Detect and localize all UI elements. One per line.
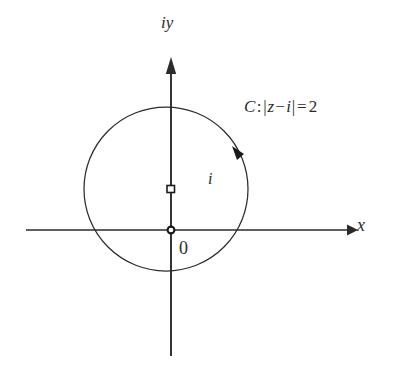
contour-circle [84,107,248,271]
contour-equation-label: C:|z−i|=2 [244,98,319,115]
center-point-label: i [208,171,212,187]
equals-sign: = [296,97,308,116]
complex-plane-diagram [0,0,394,373]
imaginary-axis-arrowhead [166,57,176,74]
contour-name: C [244,97,256,116]
circle-center-marker [167,186,175,193]
minus-sign: − [274,97,286,116]
real-axis-label: x [357,216,365,234]
origin-label: 0 [179,239,188,257]
contour-colon: : [256,97,263,116]
imaginary-axis-label: iy [161,14,173,31]
origin-dot [168,227,175,234]
radius-value: 2 [308,97,319,116]
